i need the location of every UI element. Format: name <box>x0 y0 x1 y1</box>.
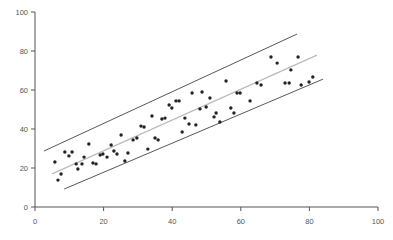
data-point <box>105 155 108 158</box>
data-point <box>183 116 186 119</box>
data-point <box>109 143 112 146</box>
y-tick-label: 100 <box>15 8 28 17</box>
data-point <box>224 79 227 82</box>
data-point <box>307 80 310 83</box>
x-tick-label: 40 <box>168 217 176 226</box>
data-point <box>63 150 66 153</box>
y-tick-label: 40 <box>20 125 28 134</box>
data-point <box>177 99 180 102</box>
data-point <box>70 150 73 153</box>
data-point <box>163 116 166 119</box>
data-point <box>135 136 138 139</box>
data-point <box>131 138 134 141</box>
data-point <box>142 125 145 128</box>
data-point <box>80 162 83 165</box>
data-point <box>91 161 94 164</box>
fit-line <box>52 55 317 174</box>
data-point <box>212 115 215 118</box>
upper-band-line <box>44 34 297 151</box>
y-tick-label: 0 <box>24 203 28 212</box>
scatter-chart: 020406080100020406080100 <box>0 0 393 240</box>
x-tick-label: 100 <box>372 217 385 226</box>
data-point <box>170 106 173 109</box>
data-point <box>194 123 197 126</box>
data-point <box>160 117 163 120</box>
data-point <box>59 172 62 175</box>
data-point <box>235 91 238 94</box>
data-point <box>208 96 211 99</box>
data-point <box>115 152 118 155</box>
data-point <box>275 61 278 64</box>
data-point <box>167 103 170 106</box>
data-point <box>139 124 142 127</box>
x-tick-label: 80 <box>305 217 313 226</box>
data-point <box>204 105 207 108</box>
data-point <box>283 81 286 84</box>
y-tick-label: 80 <box>20 47 28 56</box>
data-point <box>156 138 159 141</box>
data-point <box>94 162 97 165</box>
data-point <box>153 136 156 139</box>
y-tick-label: 20 <box>20 164 28 173</box>
data-point <box>311 75 314 78</box>
data-point <box>174 99 177 102</box>
data-point <box>218 120 221 123</box>
data-point <box>255 81 258 84</box>
data-point <box>187 122 190 125</box>
data-point <box>82 155 85 158</box>
data-point <box>126 151 129 154</box>
data-point <box>287 81 290 84</box>
lower-band-line <box>64 79 323 189</box>
regression-lines <box>44 34 323 189</box>
data-point <box>146 147 149 150</box>
y-tick-label: 60 <box>20 86 28 95</box>
data-point <box>299 83 302 86</box>
axes: 020406080100020406080100 <box>15 8 384 227</box>
data-point <box>190 91 193 94</box>
data-point <box>248 99 251 102</box>
data-point <box>289 68 292 71</box>
data-point <box>112 149 115 152</box>
x-tick-label: 60 <box>237 217 245 226</box>
data-point <box>269 55 272 58</box>
data-point <box>123 159 126 162</box>
data-point <box>232 111 235 114</box>
data-point <box>238 91 241 94</box>
data-point <box>214 111 217 114</box>
x-tick-label: 0 <box>33 217 37 226</box>
data-point <box>198 107 201 110</box>
x-tick-label: 20 <box>99 217 107 226</box>
data-point <box>229 106 232 109</box>
data-point <box>259 83 262 86</box>
data-point <box>119 133 122 136</box>
data-point <box>150 114 153 117</box>
data-point <box>53 160 56 163</box>
data-point <box>200 90 203 93</box>
data-point <box>87 142 90 145</box>
data-point <box>76 167 79 170</box>
data-point <box>296 55 299 58</box>
data-point <box>101 152 104 155</box>
data-point <box>67 154 70 157</box>
data-point <box>56 178 59 181</box>
data-point <box>180 130 183 133</box>
data-point <box>74 162 77 165</box>
